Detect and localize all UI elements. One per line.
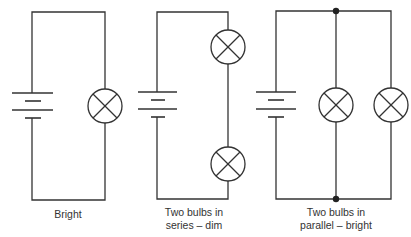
bulb-icon [88,89,122,123]
wire [32,12,105,93]
circuit-diagrams [0,0,411,237]
caption-line: Bright [54,208,81,221]
battery-icon [138,92,177,117]
bulb-icon [211,30,245,64]
caption-line: parallel – bright [300,219,372,232]
circuit-series [138,12,245,199]
battery-icon [12,93,53,118]
caption-series: Two bulbs in series – dim [165,206,223,232]
bulb-icon [211,147,245,181]
circuit-parallel [256,8,408,202]
bulb-icon [374,88,408,122]
junction-dot-icon [333,8,339,14]
junction-dot-icon [333,196,339,202]
bulb-icon [319,88,353,122]
battery-icon [256,92,296,117]
caption-line: Two bulbs in [165,206,223,219]
circuit-single-bulb [12,12,122,200]
caption-line: series – dim [165,219,223,232]
wire [276,117,391,199]
wire [276,11,391,92]
caption-line: Two bulbs in [300,206,372,219]
caption-single-bulb: Bright [54,208,81,221]
caption-parallel: Two bulbs in parallel – bright [300,206,372,232]
wire [32,118,105,200]
